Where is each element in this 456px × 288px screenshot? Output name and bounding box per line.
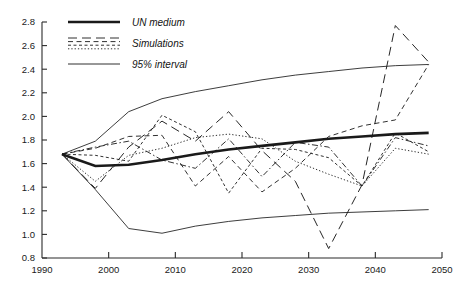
x-axis-ticks: 1990200020102020203020402050: [31, 252, 452, 275]
legend-label: UN medium: [132, 17, 185, 28]
y-tick-label: 2.8: [22, 16, 35, 27]
x-tick-label: 1990: [31, 264, 52, 275]
data-series-group: [62, 26, 429, 249]
y-tick-label: 1.6: [22, 158, 35, 169]
y-tick-label: 2.0: [22, 111, 35, 122]
y-tick-label: 2.4: [22, 64, 35, 75]
y-tick-label: 2.2: [22, 87, 35, 98]
y-tick-label: 1.8: [22, 134, 35, 145]
x-tick-label: 2050: [431, 264, 452, 275]
y-tick-label: 1.0: [22, 229, 35, 240]
y-tick-label: 1.4: [22, 182, 35, 193]
legend-label: Simulations: [132, 38, 184, 49]
x-tick-label: 2010: [165, 264, 186, 275]
series-line: [62, 133, 429, 166]
y-tick-label: 0.8: [22, 252, 35, 263]
series-line: [62, 115, 429, 193]
x-tick-label: 2000: [98, 264, 119, 275]
series-line: [62, 64, 429, 154]
chart-legend: UN mediumSimulations95% interval: [68, 17, 188, 70]
x-tick-label: 2040: [365, 264, 386, 275]
y-axis-ticks: 0.81.01.21.41.61.82.02.22.42.62.8: [22, 16, 47, 263]
y-tick-label: 1.2: [22, 205, 35, 216]
y-tick-label: 2.6: [22, 40, 35, 51]
series-line: [62, 134, 429, 186]
series-line: [62, 138, 429, 186]
line-chart: 0.81.01.21.41.61.82.02.22.42.62.8 199020…: [0, 0, 456, 288]
x-tick-label: 2020: [231, 264, 252, 275]
legend-label: 95% interval: [132, 59, 188, 70]
x-tick-label: 2030: [298, 264, 319, 275]
figure-container: 0.81.01.21.41.61.82.02.22.42.62.8 199020…: [0, 0, 456, 288]
